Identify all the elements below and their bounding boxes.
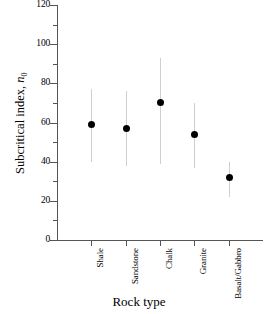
y-axis-tick bbox=[50, 201, 57, 202]
x-tick-label: Basalt/Gabbro bbox=[233, 248, 243, 299]
data-point bbox=[226, 174, 233, 181]
y-axis-minor-tick bbox=[53, 181, 57, 182]
y-axis-line bbox=[57, 5, 58, 241]
x-tick-label: Chalk bbox=[164, 248, 174, 269]
y-axis-title-subscript: 0 bbox=[20, 72, 29, 76]
y-axis-title: Subcritical index, n0 bbox=[13, 28, 30, 218]
x-axis-tick bbox=[229, 241, 230, 246]
data-point bbox=[88, 121, 95, 128]
y-axis-tick bbox=[50, 5, 57, 6]
y-tick-label: 0 bbox=[24, 235, 50, 245]
x-axis-title: Rock type bbox=[0, 294, 278, 310]
error-bar bbox=[160, 58, 161, 164]
y-axis-minor-tick bbox=[53, 142, 57, 143]
y-axis-tick bbox=[50, 240, 57, 241]
data-point bbox=[123, 125, 130, 132]
y-axis-title-text: Subcritical index, bbox=[13, 83, 27, 174]
y-axis-tick bbox=[50, 162, 57, 163]
data-point bbox=[157, 99, 164, 106]
chart-figure: 120 100 80 60 40 20 0 Subcritical index,… bbox=[0, 0, 278, 314]
x-tick-label: Granite bbox=[198, 248, 208, 274]
y-axis-tick bbox=[50, 83, 57, 84]
x-axis-tick bbox=[160, 241, 161, 246]
y-axis-minor-tick bbox=[53, 220, 57, 221]
y-axis-tick bbox=[50, 44, 57, 45]
y-axis-minor-tick bbox=[53, 64, 57, 65]
y-axis-minor-tick bbox=[53, 103, 57, 104]
x-tick-label: Sandstone bbox=[130, 248, 140, 284]
y-axis-tick bbox=[50, 123, 57, 124]
x-tick-label: Shale bbox=[95, 248, 105, 268]
y-axis-minor-tick bbox=[53, 25, 57, 26]
y-axis-title-symbol: n bbox=[13, 76, 27, 82]
x-axis-tick bbox=[126, 241, 127, 246]
y-tick-label: 120 bbox=[24, 0, 50, 10]
x-axis-tick bbox=[194, 241, 195, 246]
data-point bbox=[191, 131, 198, 138]
x-axis-tick bbox=[91, 241, 92, 246]
